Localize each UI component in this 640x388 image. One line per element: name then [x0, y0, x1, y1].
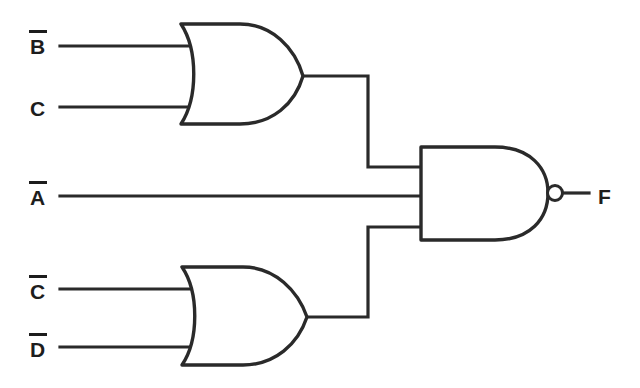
or-gate-top-body [181, 24, 303, 124]
circuit-svg [0, 0, 640, 388]
logic-circuit-diagram: B C A C D F [0, 0, 640, 388]
input-label-b-not: B [30, 33, 46, 57]
nand-inversion-bubble-icon [548, 186, 563, 201]
or-gate-bottom-body [182, 267, 307, 365]
input-label-c: C [30, 95, 46, 119]
input-label-d-not: D [30, 336, 46, 360]
output-label-f: F [598, 183, 611, 207]
wire-or-bottom-to-nand [307, 227, 423, 317]
input-label-a-not: A [30, 184, 46, 208]
nand-gate-body [421, 147, 548, 240]
input-label-c-not: C [30, 278, 46, 302]
wire-or-top-to-nand [303, 76, 423, 167]
